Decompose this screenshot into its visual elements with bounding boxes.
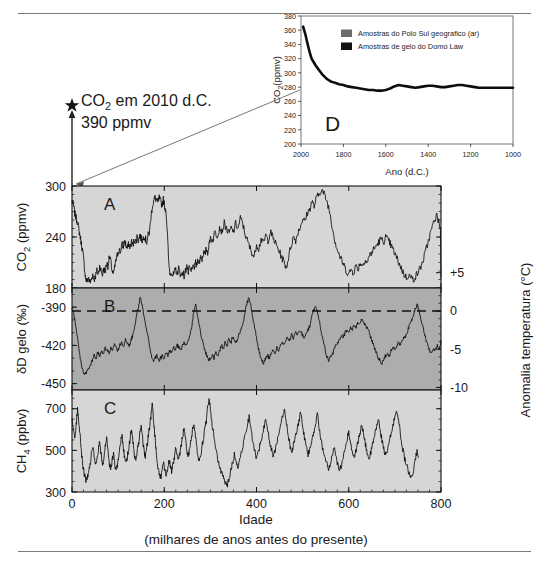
inset-x-axis-title: Ano (d.C.) (385, 166, 428, 177)
svg-text:240: 240 (284, 111, 296, 120)
panel-b-y-tick-labels: -450-420-390 (41, 301, 66, 392)
panel-c-y-tick-labels: 300500700 (45, 402, 66, 499)
annotation-co2-rest: em 2010 d.C. (111, 92, 212, 109)
svg-text:1200: 1200 (463, 150, 479, 159)
annotation-arrow-head (69, 110, 76, 118)
svg-text:320: 320 (284, 54, 296, 63)
svg-text:800: 800 (431, 497, 452, 511)
svg-text:340: 340 (284, 40, 296, 49)
svg-text:CO2(ppmv): CO2(ppmv) (271, 56, 284, 104)
svg-text:400: 400 (246, 497, 267, 511)
panel-a: A 180240300 CO2 (ppmv) (14, 180, 441, 296)
annotation-line-1: CO2 em 2010 d.C. (81, 92, 212, 112)
panel-a-y-title-main: CO (14, 252, 29, 272)
svg-text:200: 200 (154, 497, 175, 511)
inset-y-tick-labels: 200220240260280300320340360380 (284, 12, 301, 149)
panel-c-y-title-main: CH (14, 454, 29, 473)
svg-text:300: 300 (45, 486, 66, 500)
legend-label-ice: Amostras de gelo do Domo Law (358, 42, 464, 51)
svg-text:180: 180 (45, 282, 66, 296)
svg-text:280: 280 (284, 83, 296, 92)
svg-text:1400: 1400 (420, 150, 436, 159)
svg-text:0: 0 (69, 497, 76, 511)
svg-text:380: 380 (284, 12, 296, 21)
svg-text:+5: +5 (450, 266, 464, 280)
panel-c-letter: C (104, 399, 116, 418)
star-icon (65, 98, 80, 112)
panel-a-y-tick-labels: 180240300 (45, 180, 66, 296)
panel-a-y-axis-title: CO2 (ppmv) (14, 203, 32, 272)
svg-text:300: 300 (284, 69, 296, 78)
annotation-line-2: 390 ppmv (81, 114, 151, 131)
panel-b-y-title: δD gelo (‰) (14, 304, 29, 374)
svg-text:-10: -10 (450, 381, 468, 395)
inset-x-tick-labels: 200018001600140012001000 (293, 144, 521, 159)
svg-text:200: 200 (284, 140, 296, 149)
figure-container: 200220240260280300320340360380 200018001… (0, 0, 549, 562)
shared-x-axis: 0200400600800 Idade (milhares de anos an… (69, 497, 452, 547)
svg-text:1800: 1800 (335, 150, 351, 159)
legend-swatch-ice (341, 43, 352, 51)
annotation-co2-label: CO (81, 92, 105, 109)
panel-a-y-title-unit: (ppmv) (14, 203, 29, 247)
panel-b-right-tick-labels: -10-50+5 (450, 266, 468, 395)
svg-text:600: 600 (338, 497, 359, 511)
inset-panel-d: 200220240260280300320340360380 200018001… (271, 12, 521, 177)
svg-text:1000: 1000 (505, 150, 521, 159)
inset-y-title-unit: (ppmv) (271, 56, 282, 86)
svg-text:-450: -450 (41, 377, 66, 391)
panel-a-letter: A (104, 195, 116, 214)
panel-c-y-axis-title: CH4 (ppbv) (14, 409, 32, 474)
panel-b-letter: B (104, 297, 115, 316)
svg-text:260: 260 (284, 97, 296, 106)
svg-text:1600: 1600 (378, 150, 394, 159)
inset-y-axis-title: CO2(ppmv) (271, 56, 284, 104)
svg-text:-390: -390 (41, 301, 66, 315)
svg-text:360: 360 (284, 26, 296, 35)
panel-b-y-axis-title: δD gelo (‰) (14, 304, 29, 374)
svg-text:300: 300 (45, 180, 66, 194)
right-axis-title-text: Anomalia temperatura (°C) (518, 263, 533, 418)
svg-text:220: 220 (284, 126, 296, 135)
svg-text:-420: -420 (41, 339, 66, 353)
co2-2010-annotation: CO2 em 2010 d.C. 390 ppmv (65, 90, 300, 188)
svg-text:700: 700 (45, 402, 66, 416)
panel-c-y-title-unit: (ppbv) (14, 409, 29, 449)
panel-c-plot-area (72, 390, 441, 492)
legend-swatch-air (341, 30, 352, 38)
chart-svg: 200220240260280300320340360380 200018001… (0, 0, 549, 562)
svg-text:240: 240 (45, 231, 66, 245)
x-axis-title-line2: (milhares de anos antes do presente) (144, 532, 368, 547)
right-axis-title: Anomalia temperatura (°C) (518, 263, 533, 418)
x-axis-title-line1: Idade (239, 512, 273, 527)
svg-text:500: 500 (45, 444, 66, 458)
x-tick-labels: 0200400600800 (69, 497, 452, 511)
svg-text:0: 0 (450, 304, 457, 318)
svg-text:CO2 (ppmv): CO2 (ppmv) (14, 203, 32, 272)
inset-panel-letter: D (325, 112, 340, 135)
panel-c: C 300500700 CH4 (ppbv) (14, 390, 441, 500)
svg-text:2000: 2000 (293, 150, 309, 159)
svg-text:CH4 (ppbv): CH4 (ppbv) (14, 409, 32, 474)
svg-text:-5: -5 (450, 343, 461, 357)
legend-label-air: Amostras do Polo Sul geografico (ar) (358, 29, 479, 38)
